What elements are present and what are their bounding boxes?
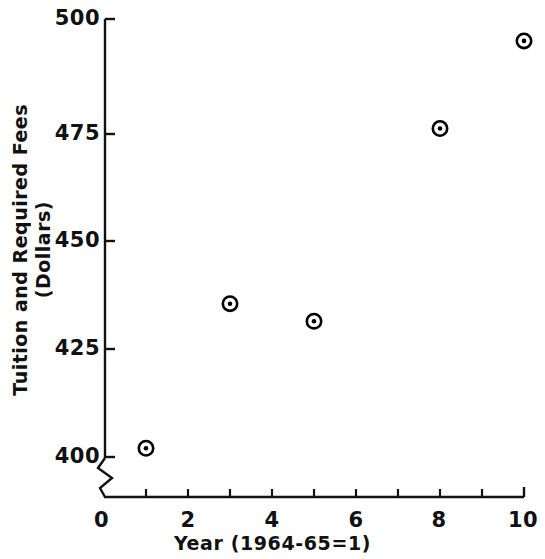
data-point-center-dot: [144, 446, 149, 451]
y-axis: [98, 19, 115, 497]
y-axis-break-zigzag-icon: [98, 458, 112, 497]
data-point-center-dot: [438, 126, 443, 131]
scatter-chart-figure: Tuition and Required Fees (Dollars) 500 …: [0, 0, 545, 559]
x-axis: [104, 487, 524, 497]
plot-area: [0, 0, 545, 559]
data-point-center-dot: [228, 301, 233, 306]
data-point-center-dot: [312, 319, 317, 324]
data-point-group: [139, 34, 531, 456]
data-point-center-dot: [522, 39, 527, 44]
